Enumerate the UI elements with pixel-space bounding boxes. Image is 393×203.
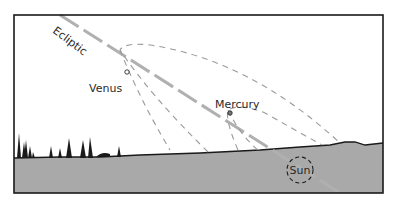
venus-label: Venus [89,82,122,95]
venus-mercury-sun-diagram: Ecliptic Venus Mercury Sun [0,0,393,203]
venus-dot [125,70,129,74]
mercury-label: Mercury [215,98,260,111]
sun-label: Sun [290,164,311,177]
mercury-dot [228,111,232,115]
